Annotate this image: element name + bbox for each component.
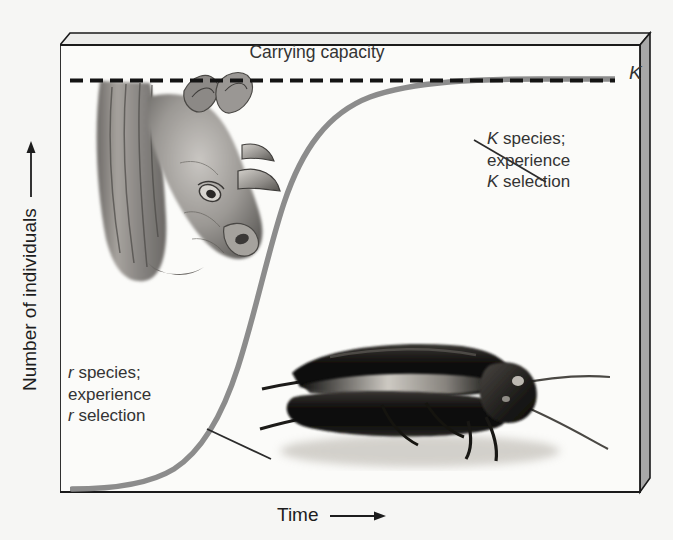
annotation-k-species: K species; experience K selection (487, 128, 570, 193)
annotation-r-line1: r species; (68, 362, 151, 384)
x-axis-label-text: Time (277, 504, 319, 525)
carrying-capacity-symbol: K (629, 62, 642, 83)
roach-mouthpart-highlight (502, 396, 510, 402)
annotation-r-line1-rest: species; (74, 363, 141, 382)
roach-shadow (280, 435, 560, 467)
cockroach-photograph (240, 333, 610, 478)
annotation-k-symbol-2: K (487, 172, 498, 191)
figure-canvas: Carrying capacity K K species; experienc… (0, 0, 673, 540)
annotation-k-symbol-1: K (487, 129, 498, 148)
box-side-panel (640, 33, 650, 492)
annotation-r-line3: r selection (68, 405, 151, 427)
up-arrow-icon (25, 141, 37, 197)
r-species-leader-line (205, 427, 275, 463)
y-axis-title: Number of individuals (19, 141, 41, 391)
annotation-k-line3: K selection (487, 171, 570, 193)
plot-content-area (70, 45, 615, 492)
annotation-r-line3-rest: selection (74, 406, 146, 425)
annotation-r-line2: experience (68, 384, 151, 406)
annotation-k-line1: K species; (487, 128, 570, 150)
y-axis-label-text: Number of individuals (19, 208, 40, 391)
annotation-k-line2: experience (487, 150, 570, 172)
roach-head (480, 362, 537, 423)
annotation-r-species: r species; experience r selection (68, 362, 151, 427)
x-axis-title: Time (277, 504, 386, 526)
carrying-capacity-label: Carrying capacity (249, 42, 384, 63)
annotation-k-line1-rest: species; (498, 129, 565, 148)
carrying-capacity-line (70, 78, 615, 83)
roach-eye (512, 376, 524, 386)
annotation-k-line3-rest: selection (498, 172, 570, 191)
right-arrow-icon (330, 510, 386, 522)
r-leader-stroke (207, 429, 271, 459)
